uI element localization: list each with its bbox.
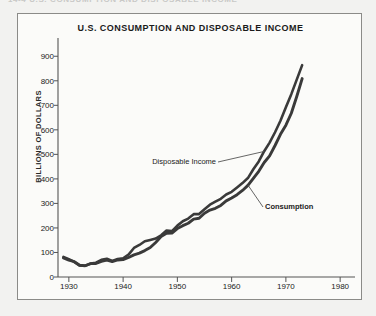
clipped-header-text: 14-4 U.S. CONSUMPTION AND DISPOSABLE INC… bbox=[8, 0, 238, 4]
leader-line-disposable-income bbox=[218, 151, 264, 162]
chart-frame: U.S. CONSUMPTION AND DISPOSABLE INCOME B… bbox=[17, 13, 362, 300]
figure-root: 14-4 U.S. CONSUMPTION AND DISPOSABLE INC… bbox=[0, 0, 376, 316]
clipped-page-header: 14-4 U.S. CONSUMPTION AND DISPOSABLE INC… bbox=[0, 0, 376, 9]
series-annotation-disposable-income: Disposable Income bbox=[152, 157, 216, 166]
series-annotation-consumption: Consumption bbox=[265, 202, 313, 211]
leader-line-consumption bbox=[248, 185, 263, 207]
series-line-consumption bbox=[63, 79, 302, 266]
